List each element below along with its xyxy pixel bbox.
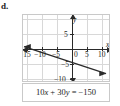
equation-coef-y: 30 [57, 87, 66, 97]
equation-var-y: y [66, 87, 70, 97]
equation-caption-box: 10x + 30y = −150 [22, 83, 110, 102]
equation-rhs: −150 [79, 87, 97, 97]
equation-equals: = [72, 87, 77, 97]
coordinate-graph: −15 −10 −5 0 5 10 5 −5 −10 y x [22, 14, 110, 82]
figure-root: d. −15 −10 −5 0 [0, 0, 120, 106]
equation-text: 10x + 30y = −150 [36, 88, 96, 97]
equation-plus: + [50, 87, 55, 97]
problem-letter: d. [1, 2, 8, 11]
line-graph [23, 15, 109, 81]
equation-var-x: x [44, 87, 48, 97]
